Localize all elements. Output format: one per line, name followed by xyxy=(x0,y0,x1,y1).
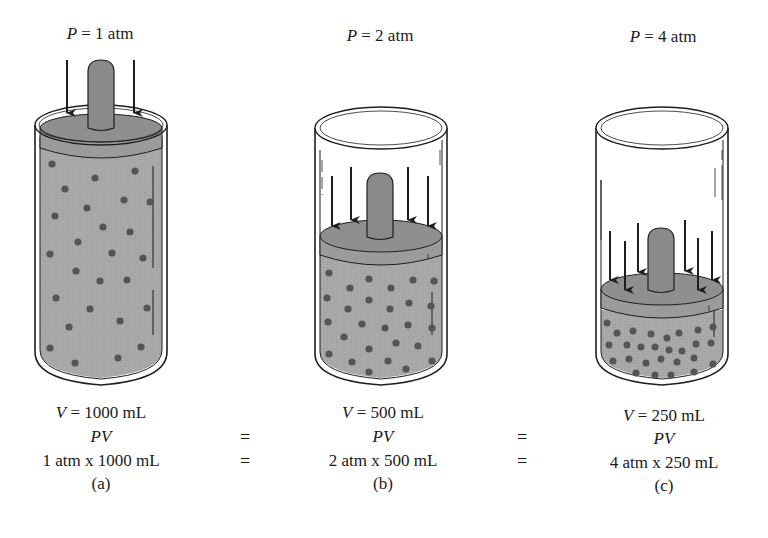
pv-product-c: 4 atm x 250 mL xyxy=(610,453,719,473)
pressure-value: = 1 atm xyxy=(81,24,133,43)
volume-symbol: V xyxy=(342,403,352,422)
volume-value: = 250 mL xyxy=(638,406,705,425)
pressure-label-c: P = 4 atm xyxy=(630,27,697,47)
gas-region-c xyxy=(601,310,723,378)
pv-label-b: PV xyxy=(373,427,394,447)
cylinder-rim-b xyxy=(315,107,447,149)
volume-symbol: V xyxy=(56,403,66,422)
caption-a: (a) xyxy=(92,474,111,494)
gas-region-b xyxy=(320,255,442,378)
volume-value: = 500 mL xyxy=(357,403,424,422)
piston-handle-c xyxy=(648,228,674,293)
piston-handle-a xyxy=(88,60,114,131)
volume-label-c: V = 250 mL xyxy=(623,406,705,426)
equals-sign-ab-product: = xyxy=(240,451,250,471)
pressure-value: = 2 atm xyxy=(361,26,413,45)
cylinder-c xyxy=(596,107,728,385)
volume-value: = 1000 mL xyxy=(70,403,146,422)
volume-label-a: V = 1000 mL xyxy=(56,403,146,423)
pressure-symbol: P xyxy=(67,24,77,43)
pv-product-a: 1 atm x 1000 mL xyxy=(42,451,159,471)
equals-sign-bc-pv: = xyxy=(517,427,527,447)
piston-handle-b xyxy=(367,173,393,240)
pressure-symbol: P xyxy=(347,26,357,45)
equals-sign-bc-product: = xyxy=(517,451,527,471)
pressure-value: = 4 atm xyxy=(644,27,696,46)
cylinder-b xyxy=(315,107,447,385)
pressure-label-a: P = 1 atm xyxy=(67,24,134,44)
pv-label-c: PV xyxy=(654,429,675,449)
caption-b: (b) xyxy=(373,474,393,494)
volume-label-b: V = 500 mL xyxy=(342,403,424,423)
pv-label-a: PV xyxy=(91,427,112,447)
pressure-label-b: P = 2 atm xyxy=(347,26,414,46)
caption-c: (c) xyxy=(655,476,674,496)
boyles-law-diagram: P = 1 atm P = 2 atm P = 4 atm V = 1000 m… xyxy=(0,0,768,538)
pv-product-b: 2 atm x 500 mL xyxy=(329,451,438,471)
pressure-symbol: P xyxy=(630,27,640,46)
equals-sign-ab-pv: = xyxy=(240,427,250,447)
volume-symbol: V xyxy=(623,406,633,425)
cylinder-rim-c xyxy=(596,107,728,149)
cylinder-a xyxy=(35,60,167,385)
